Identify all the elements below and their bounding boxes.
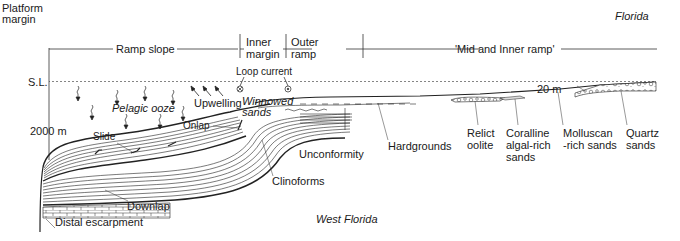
hardgrounds-label: Hardgrounds bbox=[388, 140, 452, 152]
molluscan-deposit bbox=[575, 82, 656, 97]
unconformity-label: Unconformity bbox=[299, 148, 364, 160]
region-florida-label: Florida bbox=[615, 10, 649, 22]
zone-inner-margin-label: Inner margin bbox=[246, 36, 280, 60]
upwelling-arrows bbox=[191, 86, 223, 96]
pelagic-ooze-label: Pelagic ooze bbox=[112, 102, 175, 114]
coralline-sands-label: Coralline algal-rich sands bbox=[506, 127, 551, 163]
winnowed-sands-label: Winnowed sands bbox=[242, 96, 293, 118]
relict-oolite-deposit bbox=[451, 97, 505, 102]
depth-2000m-label: 2000 m bbox=[30, 125, 67, 137]
zone-outer-ramp-label: Outer ramp bbox=[291, 36, 319, 60]
sea-level-line bbox=[49, 79, 656, 82]
zone-ramp-slope-label: Ramp slope bbox=[116, 43, 175, 55]
coralline-deposit bbox=[500, 96, 525, 100]
zone-mid-inner-ramp-label: 'Mid and Inner ramp' bbox=[455, 43, 555, 55]
downlap-label: Downlap bbox=[127, 200, 170, 212]
slide-marks bbox=[95, 120, 242, 154]
depth-20m-label: 20 m bbox=[537, 83, 561, 95]
slide-label: Slide bbox=[93, 131, 115, 143]
onlap-label: Onlap bbox=[183, 120, 210, 132]
distal-escarpment-label: Distal escarpment bbox=[55, 216, 143, 228]
platform-margin-label: Platform margin bbox=[2, 3, 43, 25]
loop-current-label: Loop current bbox=[236, 66, 292, 78]
cross-section-diagram: Platform margin Florida Ramp slope Inner… bbox=[0, 0, 680, 241]
quartz-sands-label: Quartz sands bbox=[626, 127, 659, 151]
diagram-graphics bbox=[0, 0, 680, 241]
clinoforms-label: Clinoforms bbox=[272, 175, 325, 187]
sea-level-label: S.L. bbox=[28, 76, 48, 88]
distal-escarpment bbox=[40, 167, 43, 232]
relict-oolite-label: Relict oolite bbox=[467, 127, 495, 151]
upwelling-label: Upwelling bbox=[194, 97, 242, 109]
molluscan-sands-label: Molluscan -rich sands bbox=[563, 127, 617, 151]
region-west-florida-label: West Florida bbox=[316, 213, 378, 225]
unconformity-lines bbox=[300, 108, 352, 130]
